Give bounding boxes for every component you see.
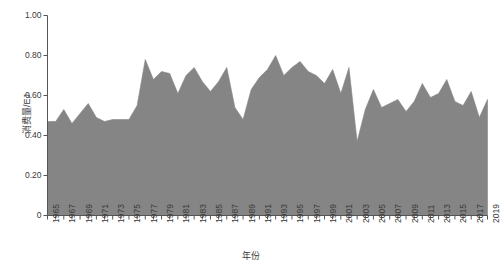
x-tick-label: 1971: [100, 204, 110, 223]
x-tick-label: 1995: [295, 204, 305, 223]
x-tick-label: 2017: [475, 204, 485, 223]
x-tick-label: 1973: [116, 204, 126, 223]
chart-plot-svg: [0, 0, 502, 269]
x-tick-label: 2005: [377, 204, 387, 223]
x-tick-label: 1989: [247, 204, 257, 223]
x-tick-label: 2019: [491, 204, 501, 223]
x-tick-label: 1985: [214, 204, 224, 223]
x-tick-label: 1981: [181, 204, 191, 223]
x-tick-label: 1987: [230, 204, 240, 223]
y-tick-label: 0.40: [8, 130, 42, 140]
y-tick-label: 0: [8, 210, 42, 220]
x-tick-label: 1991: [263, 204, 273, 223]
x-tick-label: 1965: [51, 204, 61, 223]
x-tick-label: 1997: [312, 204, 322, 223]
x-tick-label: 1993: [279, 204, 289, 223]
x-tick-label: 2011: [426, 204, 436, 222]
x-axis-label: 年份: [0, 249, 502, 262]
x-tick-label: 1983: [198, 204, 208, 223]
x-tick-label: 2003: [361, 204, 371, 223]
y-tick-label: 0.80: [8, 50, 42, 60]
x-tick-label: 2009: [410, 204, 420, 223]
x-tick-label: 1999: [328, 204, 338, 223]
y-tick-label: 0.60: [8, 90, 42, 100]
x-tick-label: 2015: [458, 204, 468, 223]
x-tick-label: 1979: [165, 204, 175, 223]
x-tick-label: 1975: [132, 204, 142, 223]
x-tick-label: 1969: [84, 204, 94, 223]
x-tick-label: 2001: [344, 204, 354, 223]
chart-figure: 消费量/EJ 年份 00.200.400.600.801.00196519671…: [0, 0, 502, 269]
series-area-0: [48, 56, 488, 216]
x-tick-label: 1977: [149, 204, 159, 223]
y-tick-label: 1.00: [8, 10, 42, 20]
y-tick-label: 0.20: [8, 170, 42, 180]
x-tick-label: 1967: [67, 204, 77, 223]
x-tick-label: 2007: [393, 204, 403, 223]
x-tick-label: 2013: [442, 204, 452, 223]
